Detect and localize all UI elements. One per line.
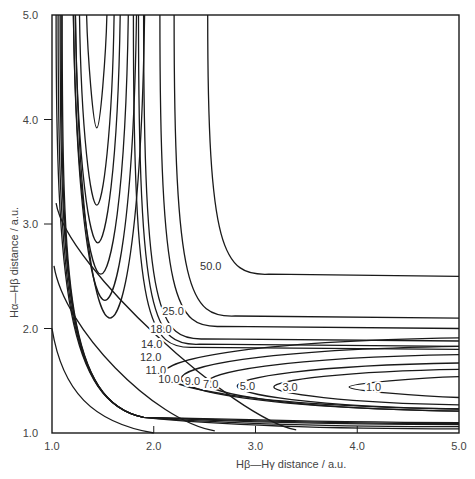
x-tick-label: 5.0 xyxy=(451,440,466,452)
y-tick-label: 4.0 xyxy=(23,114,38,126)
x-axis-title: Hβ—Hγ distance / a.u. xyxy=(236,458,346,470)
plot-frame xyxy=(52,15,459,433)
contour-3.0-vertical xyxy=(80,15,115,205)
contour-label: 25.0 xyxy=(162,305,183,317)
contour-label: 50.0 xyxy=(200,260,221,272)
contour-50.0-inner xyxy=(208,15,459,276)
contour-12.0-inner xyxy=(139,15,460,346)
contour-label: 3.0 xyxy=(282,381,297,393)
contour-1.0-vertical xyxy=(87,15,107,128)
contour-label: 18.0 xyxy=(150,323,171,335)
contour-wall xyxy=(52,329,154,434)
contour-label: 14.0 xyxy=(141,338,162,350)
contour-7.0-vertical xyxy=(73,15,128,274)
x-tick-label: 1.0 xyxy=(44,440,59,452)
x-axis-ticks: 1.02.03.04.05.0 xyxy=(44,426,466,452)
contour-25.0-inner xyxy=(174,15,459,318)
x-tick-label: 2.0 xyxy=(146,440,161,452)
contour-label: 7.0 xyxy=(203,378,218,390)
contour-wall xyxy=(54,266,215,431)
contour-label: 5.0 xyxy=(240,380,255,392)
contour-11.0-inner xyxy=(133,15,459,349)
contour-18.0-inner xyxy=(160,15,459,329)
contour-label: 9.0 xyxy=(185,375,200,387)
y-axis-ticks: 1.02.03.04.05.0 xyxy=(23,9,52,439)
contour-label: 12.0 xyxy=(140,351,161,363)
contour-14.0-outer xyxy=(60,15,459,425)
y-tick-label: 1.0 xyxy=(23,427,38,439)
contour-11.0-outer xyxy=(62,15,459,423)
contour-label: 1.0 xyxy=(366,381,381,393)
contour-10.0-vertical xyxy=(75,15,144,318)
contour-14.0-inner xyxy=(144,15,459,341)
x-tick-label: 3.0 xyxy=(248,440,263,452)
y-tick-label: 5.0 xyxy=(23,9,38,21)
contour-lines xyxy=(52,15,459,433)
y-tick-label: 2.0 xyxy=(23,323,38,335)
y-tick-label: 3.0 xyxy=(23,218,38,230)
contour-12.0-outer xyxy=(61,15,459,424)
contour-label: 10.0 xyxy=(158,373,179,385)
x-tick-label: 4.0 xyxy=(350,440,365,452)
y-axis-title: Hα—Hβ distance / a.u. xyxy=(8,207,20,318)
contour-plot: 1.02.03.04.05.0 1.02.03.04.05.0 50.025.0… xyxy=(0,0,475,479)
